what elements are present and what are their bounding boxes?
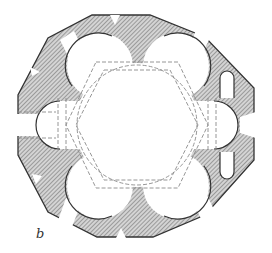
- figure-label: b: [36, 226, 44, 241]
- wall-mass: [18, 15, 254, 237]
- floor-plan-diagram: [0, 0, 272, 253]
